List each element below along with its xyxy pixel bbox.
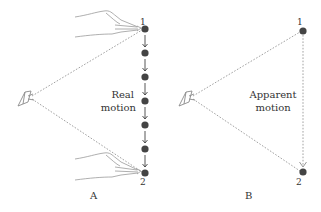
point-label-2-b: 2 xyxy=(296,177,302,187)
eye-icon xyxy=(18,91,34,106)
down-arrow-icon xyxy=(143,59,148,71)
dot-point-2 xyxy=(141,169,148,176)
panel-label-a: A xyxy=(89,190,98,201)
dot-intermediate xyxy=(141,97,148,104)
down-arrow-icon xyxy=(143,131,148,143)
caption-line-2-b: motion xyxy=(255,102,291,113)
point-label-1-b: 1 xyxy=(297,17,303,27)
eye-icon xyxy=(179,91,195,106)
dot-intermediate xyxy=(141,73,148,80)
dot-intermediate xyxy=(141,145,148,152)
panel-a: 1 2 Real motion A xyxy=(18,11,149,201)
down-arrow-icon xyxy=(143,83,148,95)
motion-diagram: 1 2 Real motion A 1 2 Apparent motion B xyxy=(0,0,321,212)
point-label-1-a: 1 xyxy=(140,17,146,27)
caption-line-2-a: motion xyxy=(101,102,137,113)
hand-icon-bottom xyxy=(75,153,141,180)
caption-line-1-b: Apparent xyxy=(248,89,296,100)
dot-point-1 xyxy=(299,27,306,34)
down-arrow-icon xyxy=(143,35,148,47)
caption-line-1-a: Real xyxy=(111,89,134,100)
panel-b: 1 2 Apparent motion B xyxy=(179,17,307,201)
hand-icon-top xyxy=(75,11,141,37)
dot-intermediate xyxy=(141,49,148,56)
dot-point-2 xyxy=(299,168,306,175)
dot-intermediate xyxy=(141,121,148,128)
dot-column-a xyxy=(141,25,148,176)
down-arrow-icon xyxy=(143,155,148,167)
sight-line-to-1 xyxy=(32,30,142,96)
panel-label-b: B xyxy=(245,190,252,201)
sight-line-to-1 xyxy=(193,32,300,96)
down-arrow-icon xyxy=(143,107,148,119)
point-label-2-a: 2 xyxy=(140,177,146,187)
